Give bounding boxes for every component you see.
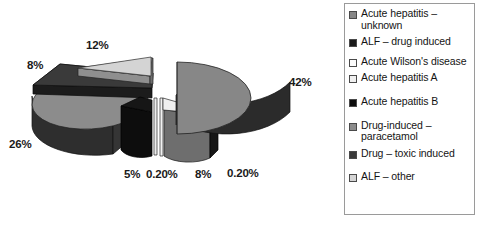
legend-swatch-icon <box>349 11 357 19</box>
legend-swatch-icon <box>349 99 357 107</box>
legend-swatch-icon <box>349 174 357 182</box>
chart-page: 12% 8% 26% 5% 0.20% 8% 0.20% 42% Acute h… <box>0 0 481 228</box>
pie-label-42-percent: 42% <box>289 76 311 88</box>
legend-item-drug-induced-paracetamol: Drug-induced – paracetamol <box>349 120 471 143</box>
legend-item-alf-drug-induced: ALF – drug induced <box>349 36 471 48</box>
legend-item-label: ALF – drug induced <box>361 36 451 48</box>
legend-spacer <box>349 85 471 92</box>
legend-item-acute-hepatitis-unknown: Acute hepatitis – unknown <box>349 8 471 31</box>
pie-label-12-percent: 12% <box>86 39 108 51</box>
legend-swatch-icon <box>349 75 357 83</box>
legend-item-drug-toxic-induced: Drug – toxic induced <box>349 148 471 160</box>
legend-spacer <box>349 160 471 167</box>
legend-swatch-icon <box>349 123 357 131</box>
pie-slice-acute-wilsons-disease <box>160 98 163 156</box>
pie-chart-svg <box>0 0 340 228</box>
legend-swatch-icon <box>349 59 357 67</box>
pie-label-020-percent-right: 0.20% <box>227 167 259 179</box>
legend-item-label: Acute Wilson's disease <box>361 56 466 68</box>
legend-spacer <box>349 109 471 116</box>
legend-item-label: Acute hepatitis A <box>361 72 438 84</box>
legend-item-acute-hepatitis-b: Acute hepatitis B <box>349 96 471 108</box>
pie-slice-acute-hepatitis-a <box>154 98 157 155</box>
legend-item-acute-wilsons-disease: Acute Wilson's disease <box>349 56 471 68</box>
legend-item-alf-other: ALF – other <box>349 171 471 183</box>
pie-label-5-percent: 5% <box>124 168 140 180</box>
pie-label-8-percent-left: 8% <box>27 59 43 71</box>
legend-item-label: ALF – other <box>361 171 415 183</box>
pie-label-020-percent-left: 0.20% <box>146 168 178 180</box>
pie-label-26-percent: 26% <box>9 138 31 150</box>
legend-swatch-icon <box>349 39 357 47</box>
chart-legend: Acute hepatitis – unknown ALF – drug ind… <box>344 3 475 215</box>
legend-item-acute-hepatitis-a: Acute hepatitis A <box>349 72 471 84</box>
legend-item-list: Acute hepatitis – unknown ALF – drug ind… <box>349 8 471 212</box>
legend-item-label: Acute hepatitis – unknown <box>361 8 471 31</box>
legend-item-label: Drug-induced – paracetamol <box>361 120 471 143</box>
legend-swatch-icon <box>349 151 357 159</box>
pie-label-8-percent-right: 8% <box>195 168 211 180</box>
legend-item-label: Acute hepatitis B <box>361 96 438 108</box>
pie-slice-acute-hepatitis-unknown <box>176 59 290 134</box>
pie-chart-area: 12% 8% 26% 5% 0.20% 8% 0.20% 42% <box>0 0 340 228</box>
legend-item-label: Drug – toxic induced <box>361 148 455 160</box>
pie-slice-acute-hepatitis-b <box>121 97 152 157</box>
